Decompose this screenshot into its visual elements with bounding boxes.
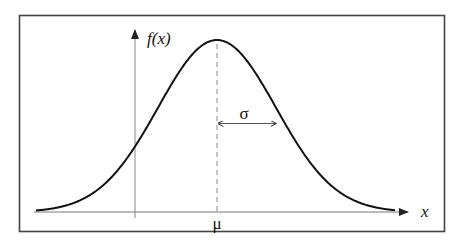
mean-label: μ <box>212 214 221 233</box>
gaussian-curve <box>36 40 395 210</box>
y-axis-label: f(x) <box>147 29 171 48</box>
x-axis-label: x <box>420 202 429 221</box>
sigma-label: σ <box>239 104 248 123</box>
normal-distribution-diagram: f(x) x μ σ <box>0 0 461 245</box>
